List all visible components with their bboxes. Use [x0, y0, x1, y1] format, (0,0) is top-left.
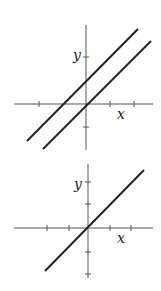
bottom-y-label: y [73, 176, 83, 192]
bottom-graph: y x [14, 164, 153, 278]
bottom-x-label: x [117, 230, 125, 246]
top-graph: y x [14, 25, 153, 150]
bottom-line-origin [45, 170, 144, 271]
top-x-label: x [117, 106, 125, 122]
graphs-figure: y x y x [0, 0, 161, 291]
top-y-label: y [72, 47, 82, 63]
top-line-shifted [27, 29, 138, 141]
top-line-origin [43, 41, 151, 149]
